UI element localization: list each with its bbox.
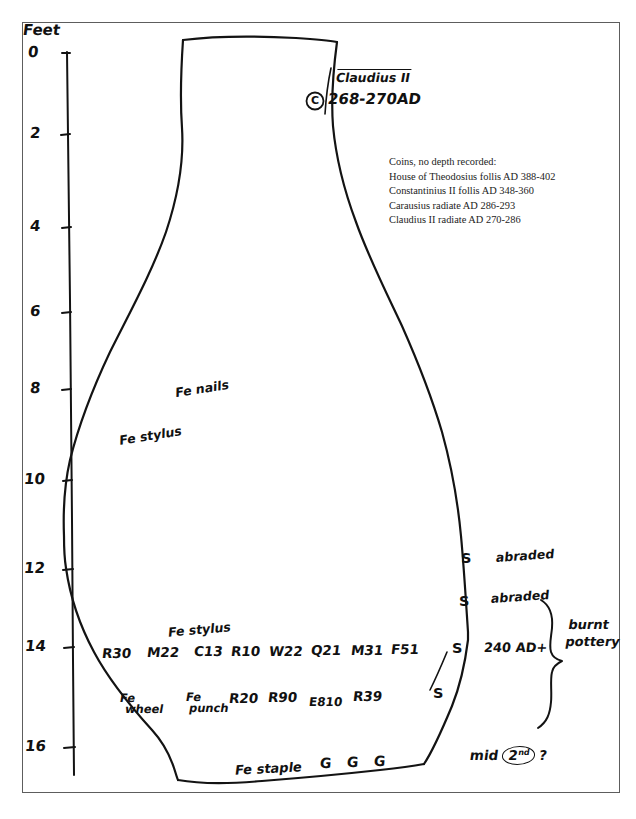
find-code-r39: R39: [352, 688, 383, 704]
typed-note-line-1: House of Theodosius follis AD 388-402: [389, 170, 604, 185]
annotation-fe-punch-line2: punch: [188, 703, 230, 714]
typed-note-line-2: Constantinius II follis AD 348-360: [389, 184, 604, 199]
typed-note-line-4: Claudius II radiate AD 270-286: [389, 213, 604, 228]
axis-tick-16: [64, 747, 75, 748]
depth-axis-line: [67, 52, 74, 775]
annotation-fe-wheel: Fe wheel: [117, 693, 166, 715]
note-burnt-pottery-line2: pottery: [564, 633, 621, 650]
find-code-r10: R10: [230, 643, 261, 659]
typed-coin-note: Coins, no depth recorded: House of Theod…: [389, 155, 604, 228]
note-burnt-pottery-line1: burnt: [567, 616, 624, 633]
s-mark-1: S: [461, 550, 471, 566]
axis-tick-2: [61, 134, 70, 135]
axis-tick-8: [62, 389, 71, 390]
annotation-fe-punch: Fe punch: [183, 692, 232, 714]
axis-unit-label: Feet: [22, 21, 62, 39]
typed-note-line-3: Carausius radiate AD 286-293: [389, 199, 604, 214]
find-code-e810: E810: [308, 695, 343, 709]
note-burnt-pottery: burnt pottery: [564, 616, 624, 650]
axis-tick-10: [63, 480, 72, 481]
axis-tick-label-16: 16: [24, 737, 47, 755]
axis-tick-4: [62, 227, 71, 228]
axis-tick-label-10: 10: [23, 470, 46, 488]
find-code-w22: W22: [268, 643, 304, 659]
axis-tick-label-2: 2: [29, 124, 41, 142]
g-mark-2: G: [346, 754, 359, 770]
find-code-r90: R90: [267, 689, 298, 705]
axis-tick-14: [64, 647, 74, 648]
find-code-q21: Q21: [310, 642, 342, 658]
axis-tick-label-0: 0: [27, 43, 39, 61]
find-code-m22: M22: [146, 644, 180, 660]
pit-profile-left: [64, 40, 183, 568]
annotation-fe-wheel-line2: wheel: [124, 704, 164, 715]
axis-tick-label-12: 12: [23, 559, 46, 577]
coin-date-label: 268-270AD: [327, 90, 422, 108]
date-note-ordinal: nd: [518, 748, 531, 757]
axis-tick-label-4: 4: [29, 217, 41, 235]
find-code-f51: F51: [390, 641, 420, 657]
g-mark-1: G: [319, 755, 332, 771]
find-code-r20: R20: [228, 690, 259, 706]
s-mark-4: S: [433, 685, 443, 701]
s-mark-3: S: [452, 640, 462, 656]
pit-profile-rim: [183, 37, 337, 42]
axis-tick-label-6: 6: [29, 302, 41, 320]
date-note-prefix: mid: [469, 747, 500, 763]
figure-sheet: Feet 0 2 4 6 8 10 12 14 16 C Claudius II…: [0, 0, 636, 819]
s-mark-2: S: [459, 593, 469, 609]
find-code-r30: R30: [101, 645, 132, 661]
date-note-mid-2nd: mid2nd?: [469, 746, 549, 765]
find-code-m31: M31: [350, 642, 384, 658]
axis-tick-12: [63, 569, 73, 570]
pit-profile-left-lower: [66, 568, 178, 780]
axis-tick-6: [62, 312, 71, 313]
date-note-century-circle: 2nd: [501, 746, 536, 765]
pit-profile-right: [332, 42, 468, 632]
g-mark-3: G: [373, 753, 386, 769]
note-240-ad-plus: 240 AD+: [483, 640, 548, 655]
burnt-pottery-brace: [538, 600, 562, 728]
find-code-c13: C13: [193, 643, 224, 659]
axis-tick-label-8: 8: [29, 379, 41, 397]
coin-symbol-letter: C: [311, 94, 319, 107]
axis-tick-label-14: 14: [24, 637, 47, 655]
coin-name-label: Claudius II: [335, 70, 412, 85]
typed-note-heading: Coins, no depth recorded:: [389, 155, 604, 170]
